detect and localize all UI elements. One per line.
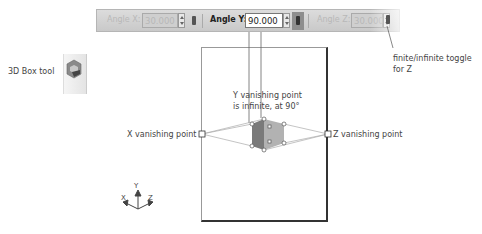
axis-y-label: Y	[134, 181, 138, 192]
3d-box-tool-icon	[67, 60, 81, 78]
x-vanishing-point-handle	[199, 131, 205, 137]
y-vp-annotation-2: is infinite, at 90°	[233, 101, 299, 112]
z-vp-annotation: Z vanishing point	[333, 129, 403, 140]
box-right-face	[264, 119, 284, 150]
y-vp-annotation-1: Y vanishing point	[233, 90, 302, 101]
box-tool-annotation: 3D Box tool	[8, 66, 54, 77]
z-vanishing-point-handle	[325, 131, 331, 137]
axis-x-label: X	[121, 193, 126, 204]
toggle-annotation-2: for Z	[393, 64, 412, 75]
illustration-canvas	[0, 0, 482, 234]
axis-z-label: Z	[148, 193, 153, 204]
x-vp-annotation: X vanishing point	[127, 129, 197, 140]
toggle-annotation-1: finite/infinite toggle	[393, 53, 472, 64]
